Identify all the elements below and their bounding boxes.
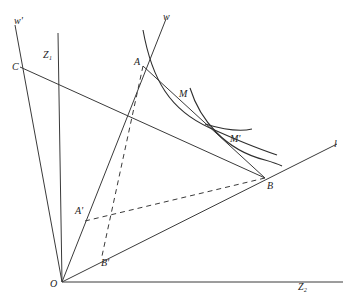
indifference-curve-m-prime [190,88,282,166]
label-z2: Z₂ [298,281,308,292]
label-z1: Z₁ [43,49,52,60]
label-o: O [50,278,57,289]
indifference-curve-m [143,30,277,155]
label-b: B [267,180,273,191]
label-c: C [12,61,19,72]
line-cb [20,67,265,178]
label-l: l [334,138,337,149]
label-w: w [163,11,170,22]
dashed-aprime-b [85,178,265,221]
dashed-a-bprime [102,66,143,256]
ray-w-prime [15,25,62,282]
label-w-prime: w' [14,15,24,26]
label-a-prime: A' [74,205,84,216]
line-ab [143,66,265,178]
diagram-canvas: w' Z₁ C w A M M' l B A' B' O Z₂ [0,0,353,306]
label-a: A [133,56,141,67]
z1-axis [58,33,62,282]
label-b-prime: B' [101,257,110,268]
label-m-prime: M' [229,133,241,144]
label-m: M [178,88,188,99]
